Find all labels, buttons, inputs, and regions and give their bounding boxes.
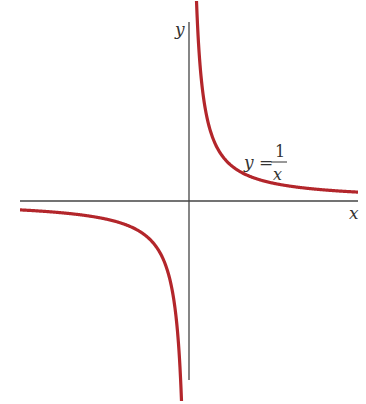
y-axis-label: y [174, 19, 185, 39]
hyperbola-plot: y x y = 1 x [0, 0, 366, 404]
curve-negative-branch [20, 210, 182, 401]
equation-numerator: 1 [275, 142, 285, 161]
equation-lhs: y = [243, 152, 273, 172]
x-axis-label: x [349, 203, 359, 223]
curve-positive-branch [197, 1, 359, 192]
equation-denominator: x [273, 165, 282, 184]
